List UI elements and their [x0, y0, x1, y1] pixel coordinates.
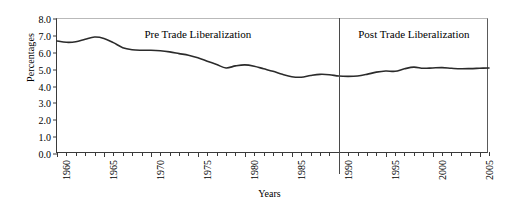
x-tick-mark-minor [376, 152, 377, 156]
x-tick-mark-minor [66, 152, 67, 156]
x-tick-mark-minor [142, 152, 143, 156]
x-tick-mark-minor [273, 152, 274, 156]
x-tick-mark-minor [226, 152, 227, 156]
x-axis-title: Years [16, 188, 507, 199]
x-tick-mark-minor [217, 152, 218, 156]
x-tick-mark-minor [489, 152, 490, 156]
x-tick-mark-minor [207, 152, 208, 156]
x-tick-mark-minor [348, 152, 349, 156]
x-tick-mark-minor [235, 152, 236, 156]
x-tick-mark-minor [451, 152, 452, 156]
x-tick-label: 1960 [61, 160, 72, 180]
x-tick-mark-minor [264, 152, 265, 156]
x-tick-label: 1985 [296, 160, 307, 180]
x-tick-mark-minor [404, 152, 405, 156]
x-tick-mark-minor [320, 152, 321, 156]
plot-area: 0.01.02.03.04.05.06.07.08.01960196519701… [56, 18, 488, 153]
x-tick-mark-minor [170, 152, 171, 156]
x-tick-mark-major [480, 152, 481, 157]
x-tick-mark-minor [282, 152, 283, 156]
x-tick-mark-minor [329, 152, 330, 156]
y-tick-label: 0.0 [39, 149, 58, 160]
x-tick-label: 1970 [155, 160, 166, 180]
x-tick-mark-major [198, 152, 199, 157]
x-tick-mark-minor [301, 152, 302, 156]
x-tick-mark-minor [358, 152, 359, 156]
x-tick-mark-major [151, 152, 152, 157]
y-tick-label: 1.0 [39, 132, 58, 143]
x-tick-mark-minor [95, 152, 96, 156]
y-tick-label: 8.0 [39, 14, 58, 25]
x-tick-mark-major [104, 152, 105, 157]
x-tick-mark-minor [311, 152, 312, 156]
x-tick-mark-major [292, 152, 293, 157]
x-tick-mark-major [245, 152, 246, 157]
x-tick-label: 2000 [437, 160, 448, 180]
x-tick-mark-major [386, 152, 387, 157]
x-tick-mark-minor [113, 152, 114, 156]
x-tick-label: 1990 [343, 160, 354, 180]
y-tick-label: 3.0 [39, 98, 58, 109]
x-tick-mark-minor [414, 152, 415, 156]
x-tick-label: 1995 [390, 160, 401, 180]
x-tick-mark-minor [123, 152, 124, 156]
x-tick-label: 1975 [202, 160, 213, 180]
x-tick-label: 1980 [249, 160, 260, 180]
x-tick-mark-minor [132, 152, 133, 156]
x-tick-label: 2005 [484, 160, 495, 180]
x-tick-mark-major [57, 152, 58, 157]
y-axis-title: Percentages [25, 0, 36, 118]
chart-figure: Percentages 0.01.02.03.04.05.06.07.08.01… [0, 0, 507, 216]
y-tick-label: 7.0 [39, 30, 58, 41]
x-tick-mark-minor [254, 152, 255, 156]
x-tick-mark-minor [442, 152, 443, 156]
x-tick-mark-minor [160, 152, 161, 156]
x-tick-label: 1965 [108, 160, 119, 180]
y-tick-label: 5.0 [39, 64, 58, 75]
x-tick-mark-minor [76, 152, 77, 156]
x-tick-mark-minor [470, 152, 471, 156]
y-tick-label: 6.0 [39, 47, 58, 58]
trade-liberalization-divider [339, 18, 340, 174]
y-tick-label: 2.0 [39, 115, 58, 126]
x-tick-mark-minor [188, 152, 189, 156]
x-tick-mark-minor [395, 152, 396, 156]
x-tick-mark-minor [367, 152, 368, 156]
region-annotation-post: Post Trade Liberalization [358, 28, 469, 40]
region-annotation-pre: Pre Trade Liberalization [144, 28, 251, 40]
x-tick-mark-minor [461, 152, 462, 156]
x-tick-mark-major [433, 152, 434, 157]
y-tick-label: 4.0 [39, 81, 58, 92]
x-tick-mark-minor [179, 152, 180, 156]
x-tick-mark-minor [423, 152, 424, 156]
x-tick-mark-minor [85, 152, 86, 156]
